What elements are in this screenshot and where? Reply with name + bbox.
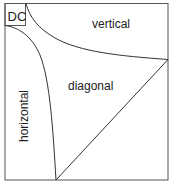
- diagonal-label: diagonal: [68, 79, 113, 93]
- vertical-label: vertical: [92, 17, 130, 31]
- dc-label: DC: [8, 9, 27, 24]
- diagonal-boundary-line: [56, 60, 168, 181]
- phase-diagram: DC vertical diagonal horizontal: [0, 0, 175, 190]
- vertical-boundary-curve: [26, 4, 168, 60]
- horizontal-label: horizontal: [17, 90, 31, 142]
